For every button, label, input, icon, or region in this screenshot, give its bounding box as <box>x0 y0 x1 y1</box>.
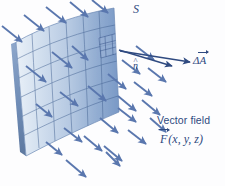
field-arrow-3 <box>70 2 88 17</box>
area-element-label: ΔA <box>193 55 206 66</box>
vector-field-title: Vector field <box>157 115 210 126</box>
field-arrow-23 <box>46 142 62 155</box>
field-arrow-2 <box>46 7 66 23</box>
field-arrow-1 <box>24 15 44 31</box>
flux-through-surface-diagram: S ^n ΔA Vector field F (x, y, z) <box>0 0 225 186</box>
normal-vector-label: ^n <box>133 61 138 71</box>
field-arrow-19 <box>142 100 160 115</box>
field-arrow-17 <box>100 118 118 133</box>
vector-field-arguments: (x, y, z) <box>168 132 203 146</box>
field-arrow-9 <box>60 92 78 106</box>
vector-field-expression: F (x, y, z) <box>160 133 203 145</box>
surface-label-S: S <box>133 3 139 15</box>
field-arrow-4 <box>92 0 108 13</box>
area-element-symbol: A <box>199 54 206 66</box>
field-arrow-16 <box>148 68 166 82</box>
field-arrow-10 <box>88 86 106 101</box>
field-arrow-5 <box>26 66 46 82</box>
field-arrow-7 <box>72 46 88 60</box>
vector-field-symbol: F <box>160 132 167 146</box>
hat-accent: ^ <box>134 57 138 66</box>
vector-arrow-accent-A <box>198 52 208 53</box>
field-arrow-20 <box>64 128 82 142</box>
field-arrow-24 <box>128 130 146 144</box>
vector-arrow-accent-F <box>159 129 169 130</box>
field-arrow-21 <box>84 136 102 151</box>
field-arrow-group <box>2 0 166 177</box>
annotation-arrow-group <box>119 50 190 66</box>
field-arrow-11 <box>108 74 126 89</box>
field-arrow-14 <box>118 96 136 111</box>
field-arrow-6 <box>52 52 72 68</box>
field-arrow-18 <box>118 108 136 122</box>
field-arrow-15 <box>134 82 152 96</box>
vector-field-arrows <box>0 0 225 186</box>
field-arrow-0 <box>2 26 22 42</box>
field-arrow-25 <box>66 160 86 177</box>
field-arrow-8 <box>36 104 52 117</box>
